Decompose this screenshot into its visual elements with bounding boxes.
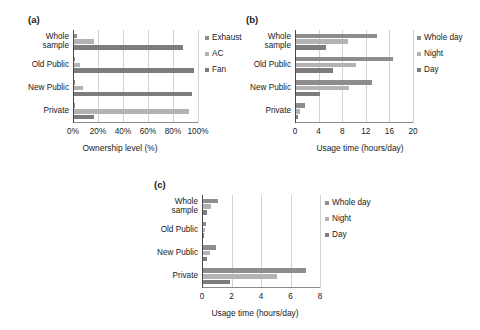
bar-whole-sample-exhaust [74,34,77,39]
category-label: Private [136,271,198,280]
bar-private-day [203,280,230,285]
bar-private-day [296,115,298,120]
x-tick-label: 40% [115,127,131,136]
bar-new-public-whole-day [203,245,216,250]
bar-old-public-ac [74,63,80,68]
panel-a-tag: (a) [28,14,40,25]
x-tick-label: 100% [188,127,209,136]
x-tick-label: 0 [293,127,298,136]
x-tick-label: 0% [67,127,79,136]
panel-b-x-axis-title: Usage time (hours/day) [240,143,480,153]
category-label: Wholesample [136,197,198,216]
category-label: Private [7,106,69,115]
category-label: Wholesample [7,32,69,51]
bar-old-public-day [203,233,204,238]
legend-label: Whole day [424,33,463,42]
x-tick-label: 0 [200,292,205,301]
bar-whole-sample-ac [74,39,94,44]
category-label: New Public [7,83,69,92]
legend-item: Night [325,214,371,223]
legend-swatch-icon [205,68,209,72]
legend-swatch-icon [325,217,329,221]
panel-c-x-axis-title: Usage time (hours/day) [110,308,400,318]
x-axis-line [73,122,198,123]
legend-swatch-icon [205,52,209,56]
legend-swatch-icon [417,68,421,72]
bar-whole-sample-night [296,39,348,44]
category-label: Old Public [7,60,69,69]
legend-label: Fan [212,65,226,74]
bar-whole-sample-night [203,204,211,209]
legend-item: Day [325,230,371,239]
panel-b-plot-area [295,30,413,123]
panel-a: (a) WholesampleOld PublicNew PublicPriva… [0,0,240,165]
gridline [389,30,390,123]
bar-new-public-whole-day [296,80,372,85]
panel-b-legend: Whole dayNightDay [417,33,463,81]
x-tick-label: 4 [259,292,264,301]
x-tick-label: 4 [316,127,321,136]
bar-new-public-fan [74,92,192,97]
x-tick-label: 8 [340,127,345,136]
category-label: New Public [136,248,198,257]
category-label: New Public [229,83,291,92]
bar-private-night [296,109,300,114]
bar-old-public-fan [74,68,194,73]
panel-c-tag: (c) [154,179,166,190]
legend-label: Whole day [332,198,371,207]
x-tick-label: 20 [408,127,417,136]
legend-item: Night [417,49,463,58]
panel-c-legend: Whole dayNightDay [325,198,371,246]
x-tick-label: 16 [385,127,394,136]
panel-c: (c) WholesampleOld PublicNew PublicPriva… [120,165,410,330]
x-axis-line [202,287,320,288]
bar-whole-sample-fan [74,45,183,50]
legend-swatch-icon [417,36,421,40]
gridline [413,30,414,123]
bar-private-exhaust [74,103,75,108]
gridline [342,30,343,123]
panel-a-x-axis-title: Ownership level (%) [0,143,240,153]
bar-whole-sample-whole-day [203,199,218,204]
bar-old-public-whole-day [203,222,206,227]
x-tick-label: 80% [165,127,181,136]
x-tick-label: 8 [318,292,323,301]
bar-private-whole-day [296,103,305,108]
panel-b-tag: (b) [246,14,258,25]
legend-swatch-icon [325,233,329,237]
x-tick-label: 2 [229,292,234,301]
category-label: Private [229,106,291,115]
legend-label: Day [332,230,347,239]
category-label: Wholesample [229,32,291,51]
bar-new-public-day [296,92,320,97]
category-label: Old Public [136,225,198,234]
legend-label: Night [424,49,443,58]
panel-a-plot-area [73,30,198,123]
bar-whole-sample-whole-day [296,34,377,39]
bar-new-public-day [203,257,207,262]
bar-old-public-day [296,68,333,73]
legend-item: Day [417,65,463,74]
gridline [320,195,321,288]
bar-private-whole-day [203,268,306,273]
legend-label: Day [424,65,439,74]
bar-new-public-night [203,251,210,256]
bar-private-fan [74,115,94,120]
bar-whole-sample-day [296,45,326,50]
x-tick-label: 6 [288,292,293,301]
panel-c-plot-area [202,195,320,288]
bar-old-public-night [296,63,356,68]
legend-item: Whole day [417,33,463,42]
x-tick-label: 12 [361,127,370,136]
bar-new-public-night [296,86,349,91]
panel-b: (b) WholesampleOld PublicNew PublicPriva… [240,0,480,165]
bar-whole-sample-day [203,210,207,215]
legend-label: AC [212,49,223,58]
gridline [366,30,367,123]
x-tick-label: 20% [90,127,106,136]
legend-swatch-icon [417,52,421,56]
legend-item: Whole day [325,198,371,207]
legend-swatch-icon [205,36,209,40]
bar-private-ac [74,109,189,114]
bar-new-public-ac [74,86,83,91]
